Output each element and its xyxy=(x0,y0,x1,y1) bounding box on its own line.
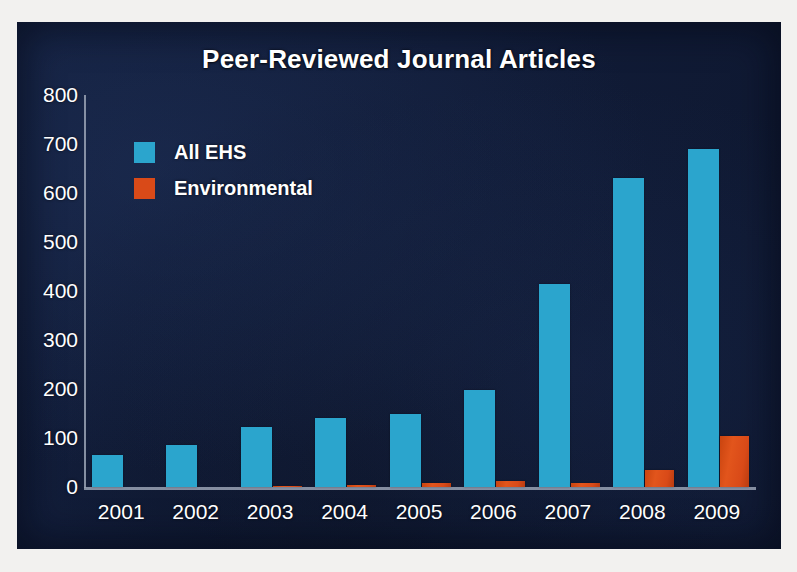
chart-title: Peer-Reviewed Journal Articles xyxy=(17,44,781,75)
bar-group xyxy=(456,95,530,487)
x-axis-tick-labels: 200120022003200420052006200720082009 xyxy=(84,500,754,540)
chart-legend: All EHSEnvironmental xyxy=(134,134,313,206)
bar-environmental xyxy=(571,483,600,487)
bar-all-ehs xyxy=(166,445,197,487)
legend-entry: Environmental xyxy=(134,170,313,206)
scanned-page-background: Peer-Reviewed Journal Articles 800700600… xyxy=(0,0,797,572)
x-axis-tick-label: 2009 xyxy=(680,500,754,524)
bar-all-ehs xyxy=(464,390,495,487)
y-axis-tick-labels: 8007006005004003002001000 xyxy=(22,22,78,549)
x-axis-tick-label: 2002 xyxy=(158,500,232,524)
x-axis-tick-label: 2006 xyxy=(456,500,530,524)
bar-group xyxy=(680,95,754,487)
bar-all-ehs xyxy=(92,455,123,487)
legend-entry: All EHS xyxy=(134,134,313,170)
bar-environmental xyxy=(496,481,525,487)
y-axis-tick-label: 700 xyxy=(26,132,78,156)
legend-swatch-icon xyxy=(134,178,155,199)
legend-label: Environmental xyxy=(174,177,313,200)
bar-group xyxy=(307,95,381,487)
x-axis-tick-label: 2007 xyxy=(531,500,605,524)
bar-all-ehs xyxy=(390,414,421,488)
bar-all-ehs xyxy=(688,149,719,487)
x-axis-line xyxy=(84,487,756,490)
bar-all-ehs xyxy=(613,178,644,487)
x-axis-tick-label: 2003 xyxy=(233,500,307,524)
bar-group xyxy=(605,95,679,487)
bar-environmental xyxy=(645,470,674,487)
bar-all-ehs xyxy=(315,418,346,487)
bar-group xyxy=(531,95,605,487)
chart-slide: Peer-Reviewed Journal Articles 800700600… xyxy=(17,22,781,549)
bar-environmental xyxy=(273,486,302,487)
bar-environmental xyxy=(347,485,376,487)
legend-swatch-icon xyxy=(134,142,155,163)
x-axis-tick-label: 2001 xyxy=(84,500,158,524)
x-axis-tick-label: 2008 xyxy=(605,500,679,524)
legend-label: All EHS xyxy=(174,141,246,164)
bar-environmental xyxy=(422,483,451,487)
bar-environmental xyxy=(720,436,749,487)
bar-all-ehs xyxy=(241,427,272,487)
y-axis-tick-label: 200 xyxy=(26,377,78,401)
y-axis-tick-label: 400 xyxy=(26,279,78,303)
y-axis-tick-label: 500 xyxy=(26,230,78,254)
x-axis-tick-label: 2005 xyxy=(382,500,456,524)
y-axis-tick-label: 100 xyxy=(26,426,78,450)
y-axis-tick-label: 300 xyxy=(26,328,78,352)
y-axis-tick-label: 600 xyxy=(26,181,78,205)
bar-all-ehs xyxy=(539,284,570,487)
y-axis-tick-label: 800 xyxy=(26,83,78,107)
y-axis-tick-label: 0 xyxy=(26,475,78,499)
x-axis-tick-label: 2004 xyxy=(307,500,381,524)
bar-group xyxy=(382,95,456,487)
